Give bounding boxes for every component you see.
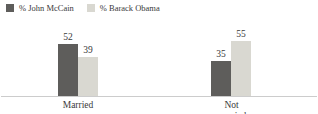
mccain-swatch-icon — [6, 4, 14, 12]
obama-swatch-icon — [87, 4, 95, 12]
legend-item-mccain: % John McCain — [6, 3, 74, 13]
bar-obama-married — [78, 57, 98, 96]
value-label: 55 — [236, 29, 246, 40]
category-label-not-married: Not married — [211, 100, 252, 114]
bar-col-mccain-not-married: 35 — [211, 49, 231, 96]
bar-obama-not-married — [231, 41, 251, 96]
value-label: 39 — [83, 45, 93, 56]
legend-label-obama: % Barack Obama — [100, 3, 160, 13]
bar-group-not-married: 35 55 — [211, 29, 251, 96]
x-axis-line — [1, 96, 317, 97]
category-label-married: Married — [58, 100, 98, 111]
bar-col-obama-married: 39 — [78, 45, 98, 96]
bar-col-mccain-married: 52 — [58, 32, 78, 96]
bar-chart: % John McCain % Barack Obama 52 39 35 55… — [0, 0, 318, 114]
bar-col-obama-not-married: 55 — [231, 29, 251, 96]
bar-group-married: 52 39 — [58, 32, 98, 96]
bar-mccain-not-married — [211, 61, 231, 96]
legend-item-obama: % Barack Obama — [87, 3, 160, 13]
bar-mccain-married — [58, 44, 78, 96]
value-label: 35 — [216, 49, 226, 60]
chart-legend: % John McCain % Barack Obama — [6, 3, 160, 13]
value-label: 52 — [63, 32, 73, 43]
legend-label-mccain: % John McCain — [19, 3, 74, 13]
